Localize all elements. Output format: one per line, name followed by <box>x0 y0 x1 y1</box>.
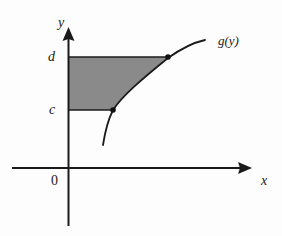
curve-label-g-of-y: g(y) <box>218 34 239 47</box>
point-marker-at-d <box>165 54 171 60</box>
y-tick-label-c: c <box>49 103 55 117</box>
origin-label: 0 <box>51 174 58 188</box>
figure-container: y x d c g(y) 0 <box>0 0 282 236</box>
y-axis-arrowhead-icon <box>63 27 75 41</box>
point-marker-at-c <box>110 107 116 113</box>
y-axis-label: y <box>58 16 64 30</box>
x-axis-label: x <box>261 174 267 188</box>
y-tick-label-d: d <box>48 50 55 64</box>
x-axis-arrowhead-icon <box>238 162 252 174</box>
plot-canvas <box>0 0 282 236</box>
